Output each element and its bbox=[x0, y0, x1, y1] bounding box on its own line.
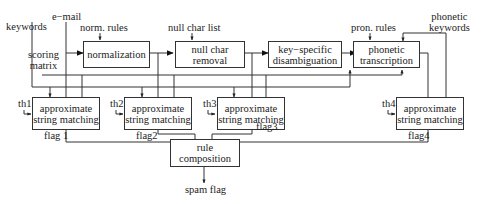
rule-composition-line1: rule bbox=[197, 142, 213, 153]
spam-flag-output-label: spam flag bbox=[185, 184, 226, 195]
phonetic-transcription-line1: phonetic bbox=[368, 44, 404, 55]
matcher-2-line2: string matching bbox=[125, 114, 191, 125]
keywords-input-label: keywords bbox=[6, 21, 47, 32]
phonetic-keywords-line2: keywords bbox=[429, 22, 470, 33]
rule-composition-block: rule composition bbox=[170, 139, 240, 167]
phonetic-keywords-line1: phonetic bbox=[429, 11, 470, 22]
matcher-2-line1: approximate bbox=[132, 103, 184, 114]
normalization-label: normalization bbox=[87, 49, 145, 60]
rule-composition-line2: composition bbox=[179, 153, 231, 164]
disambiguation-line2: disambiguation bbox=[273, 55, 338, 66]
approx-string-matching-2: approximate string matching bbox=[124, 97, 192, 130]
phonetic-transcription-line2: transcription bbox=[360, 55, 413, 66]
normalization-block: normalization bbox=[83, 41, 150, 68]
scoring-matrix-line1: scoring bbox=[28, 49, 59, 60]
matcher-1-line2: string matching bbox=[33, 114, 99, 125]
threshold-2-label: th2 bbox=[110, 98, 123, 109]
flag-4-label: flag4 bbox=[408, 130, 430, 141]
approx-string-matching-1: approximate string matching bbox=[32, 97, 100, 130]
null-char-removal-line1: null char bbox=[191, 44, 228, 55]
flag-3-label: flag3 bbox=[256, 121, 278, 132]
null-char-removal-line2: removal bbox=[193, 55, 227, 66]
pron-rules-label: pron. rules bbox=[351, 22, 396, 33]
scoring-matrix-line2: matrix bbox=[28, 60, 59, 71]
flag-1-label: flag 1 bbox=[44, 130, 68, 141]
norm-rules-label: norm. rules bbox=[80, 22, 128, 33]
email-input-label: e−mail bbox=[52, 11, 81, 22]
approx-string-matching-4: approximate string matching bbox=[396, 97, 464, 130]
null-char-list-label: null char list bbox=[168, 22, 221, 33]
threshold-3-label: th3 bbox=[203, 98, 216, 109]
flag-2-label: flag2 bbox=[136, 130, 158, 141]
matcher-1-line1: approximate bbox=[40, 103, 92, 114]
threshold-1-label: th1 bbox=[18, 98, 31, 109]
matcher-4-line1: approximate bbox=[404, 103, 456, 114]
disambiguation-block: key−specific disambiguation bbox=[268, 41, 342, 68]
phonetic-keywords-label: phonetic keywords bbox=[429, 11, 470, 33]
null-char-removal-block: null char removal bbox=[175, 41, 245, 68]
matcher-4-line2: string matching bbox=[397, 114, 463, 125]
matcher-3-line1: approximate bbox=[225, 103, 277, 114]
threshold-4-label: th4 bbox=[382, 98, 395, 109]
disambiguation-line1: key−specific bbox=[278, 44, 332, 55]
phonetic-transcription-block: phonetic transcription bbox=[353, 41, 420, 68]
scoring-matrix-label: scoring matrix bbox=[28, 49, 59, 71]
